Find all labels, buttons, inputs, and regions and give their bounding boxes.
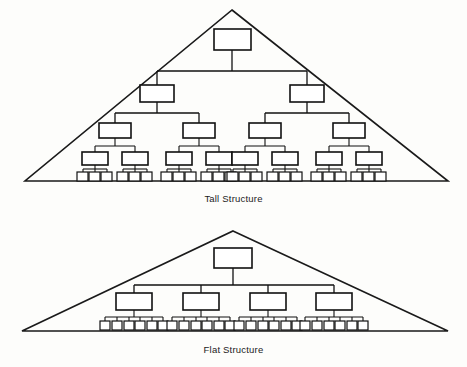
flat-node-l3: [281, 321, 291, 330]
tall-node-l5: [375, 172, 386, 181]
tall-node-l4: [232, 152, 258, 165]
tall-node-l1: [214, 29, 251, 50]
tall-node-l5: [185, 172, 196, 181]
tall-node-l5: [141, 172, 152, 181]
flat-structure-group: [22, 231, 448, 331]
tall-node-l4: [356, 152, 382, 165]
tall-node-l4: [316, 152, 342, 165]
flat-node-l3: [112, 321, 122, 330]
flat-node-l3: [100, 321, 110, 330]
flat-node-l3: [135, 321, 145, 330]
flat-node-l2: [116, 293, 152, 310]
flat-node-l3: [191, 321, 201, 330]
tall-node-l4: [206, 152, 232, 165]
flat-node-l1: [214, 248, 252, 268]
flat-node-l3: [214, 321, 224, 330]
tall-node-l5: [363, 172, 374, 181]
tall-node-l2: [140, 85, 174, 102]
flat-node-l3: [358, 321, 368, 330]
tall-node-l5: [251, 172, 262, 181]
tall-node-l2: [290, 85, 324, 102]
tall-node-l5: [335, 172, 346, 181]
flat-node-l3: [312, 321, 322, 330]
flat-node-l2: [316, 293, 352, 310]
tall-node-l5: [201, 172, 212, 181]
flat-node-l3: [269, 321, 279, 330]
flat-node-l3: [335, 321, 345, 330]
tall-node-l4: [166, 152, 192, 165]
tall-node-l3: [333, 123, 365, 138]
flat-node-l3: [179, 321, 189, 330]
tall-node-l5: [323, 172, 334, 181]
tall-node-l3: [183, 123, 215, 138]
flat-node-l2: [250, 293, 286, 310]
tall-node-l5: [101, 172, 112, 181]
flat-node-l3: [124, 321, 134, 330]
tall-node-l5: [267, 172, 278, 181]
flat-node-l3: [147, 321, 157, 330]
flat-node-l3: [324, 321, 334, 330]
tall-node-l5: [173, 172, 184, 181]
tall-node-l3: [249, 123, 281, 138]
tall-node-l5: [239, 172, 250, 181]
flat-node-l3: [202, 321, 212, 330]
tall-node-l5: [161, 172, 172, 181]
tall-node-l5: [77, 172, 88, 181]
tall-node-l4: [122, 152, 148, 165]
tall-node-l4: [272, 152, 298, 165]
tall-node-l5: [279, 172, 290, 181]
flat-node-l3: [258, 321, 268, 330]
tall-node-l5: [291, 172, 302, 181]
tall-node-l4: [82, 152, 108, 165]
diagram-canvas: [0, 0, 467, 367]
tall-node-l3: [99, 123, 131, 138]
tall-node-l5: [213, 172, 224, 181]
flat-node-l3: [300, 321, 310, 330]
flat-node-l3: [167, 321, 177, 330]
flat-node-l3: [347, 321, 357, 330]
flat-node-l2: [183, 293, 219, 310]
flat-structure-caption: Flat Structure: [0, 344, 467, 355]
flat-node-l3: [246, 321, 256, 330]
tall-structure-caption: Tall Structure: [0, 193, 467, 204]
tall-structure-group: [25, 10, 448, 181]
tall-node-l5: [89, 172, 100, 181]
flat-triangle-outline: [22, 231, 448, 331]
tall-node-l5: [311, 172, 322, 181]
tall-node-l5: [129, 172, 140, 181]
tall-node-l5: [351, 172, 362, 181]
organizational-structures-figure: Tall Structure Flat Structure: [0, 0, 467, 367]
tall-node-l5: [227, 172, 238, 181]
tall-node-l5: [117, 172, 128, 181]
flat-node-l3: [234, 321, 244, 330]
